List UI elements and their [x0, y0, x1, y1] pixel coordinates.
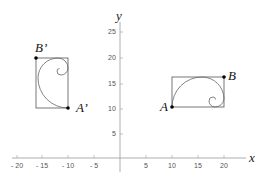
x-tick-label: 20 — [220, 162, 228, 169]
point-a — [170, 105, 174, 109]
image-figure: A’ B’ — [34, 40, 88, 115]
x-tick-label: - 10 — [62, 162, 74, 169]
original-spiral — [172, 77, 224, 107]
x-tick-label: 5 — [144, 162, 148, 169]
coordinate-plane: x y - 20 - 15 - 10 - 5 5 10 15 20 5 10 1… — [0, 0, 271, 179]
x-axis-label: x — [248, 150, 255, 165]
x-ticks: - 20 - 15 - 10 - 5 5 10 15 20 — [11, 155, 228, 169]
point-b-prime-label: B’ — [35, 40, 47, 55]
y-tick-label: 25 — [108, 28, 116, 35]
point-a-prime-label: A’ — [75, 100, 88, 115]
x-tick-label: 10 — [168, 162, 176, 169]
y-tick-label: 5 — [112, 130, 116, 137]
point-b — [222, 75, 226, 79]
y-ticks: 5 10 15 20 25 — [108, 28, 123, 137]
original-rectangle — [172, 77, 224, 107]
y-tick-label: 10 — [108, 105, 116, 112]
original-figure: A B — [159, 68, 236, 114]
x-tick-label: - 15 — [36, 162, 48, 169]
y-tick-label: 20 — [108, 54, 116, 61]
y-axis-label: y — [114, 8, 122, 23]
axes: x y — [12, 8, 255, 172]
point-a-label: A — [159, 99, 168, 114]
x-tick-label: 15 — [194, 162, 202, 169]
point-b-label: B — [228, 68, 236, 83]
x-tick-label: - 20 — [11, 162, 23, 169]
image-spiral — [38, 58, 68, 108]
x-tick-label: - 5 — [90, 162, 98, 169]
point-a-prime — [66, 106, 70, 110]
point-b-prime — [34, 56, 38, 60]
y-tick-label: 15 — [108, 80, 116, 87]
image-rectangle — [36, 58, 68, 108]
